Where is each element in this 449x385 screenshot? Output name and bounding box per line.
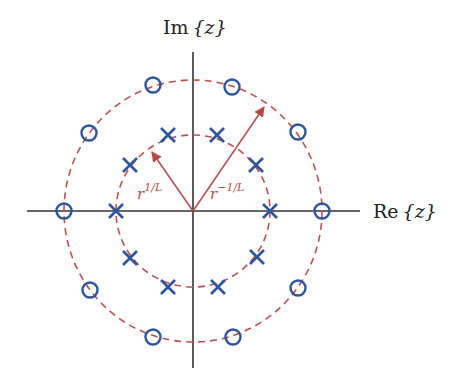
zero-marker [225,80,240,95]
imag-axis-label: Im{z} [163,16,227,38]
zero-marker [291,125,306,140]
outer-radius-arrow [193,107,264,211]
pole-marker [123,158,137,172]
real-axis-label: Re{z} [373,200,437,222]
pole-marker [123,251,137,265]
pole-marker [250,250,264,264]
outer-radius-label: r−1/L [210,181,244,203]
pole-marker [161,128,175,142]
pole-marker [210,128,224,142]
pole-zero-diagram: r1/L r−1/L Im{z} Re{z} [0,0,449,385]
zero-marker [83,283,98,298]
zero-marker [146,330,161,345]
zero-marker [291,281,306,296]
pole-marker [249,158,263,172]
zero-marker [82,126,97,141]
pole-marker [211,280,225,294]
inner-radius-label: r1/L [137,181,162,203]
